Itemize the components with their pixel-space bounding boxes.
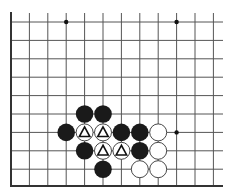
white-stone — [150, 142, 167, 159]
go-board-diagram — [0, 0, 230, 192]
white-stone — [131, 161, 148, 178]
white-stone — [150, 161, 167, 178]
black-stone — [113, 124, 131, 142]
black-stone — [94, 160, 112, 178]
star-point-icon — [174, 130, 178, 134]
black-stone — [131, 142, 149, 160]
black-stone — [131, 124, 149, 142]
star-point-icon — [64, 20, 68, 24]
go-board-svg — [0, 0, 230, 192]
black-stone — [94, 105, 112, 123]
star-point-icon — [174, 20, 178, 24]
black-stone — [57, 124, 75, 142]
black-stone — [76, 105, 94, 123]
black-stone — [76, 142, 94, 160]
white-stone — [150, 124, 167, 141]
